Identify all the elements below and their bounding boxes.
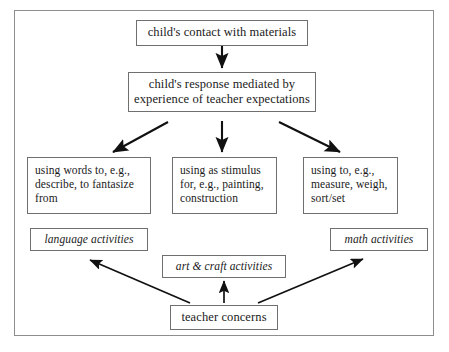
node-teacher-concerns[interactable]: teacher concerns (170, 305, 278, 330)
node-language-activities[interactable]: language activities (30, 228, 148, 251)
node-using-as-stimulus[interactable]: using as stimulus for, e.g., painting, c… (172, 157, 277, 214)
node-label: teacher concerns (171, 310, 277, 325)
node-label: using as stimulus for, e.g., painting, c… (180, 163, 276, 205)
node-label: child's response mediated by experience … (129, 77, 315, 108)
node-label: child's contact with materials (137, 25, 307, 40)
figure-root: child's contact with materials child's r… (0, 0, 449, 352)
node-label: art & craft activities (163, 259, 285, 273)
node-label: language activities (31, 232, 147, 246)
node-label: using to, e.g., measure, weigh, sort/set (311, 163, 397, 205)
node-math-activities[interactable]: math activities (330, 228, 428, 251)
node-label: using words to, e.g., describe, to fanta… (35, 163, 150, 205)
node-childs-contact-with-materials[interactable]: child's contact with materials (136, 20, 308, 46)
node-childs-response-mediated[interactable]: child's response mediated by experience … (128, 72, 316, 112)
node-label: math activities (331, 232, 427, 246)
node-using-words-to[interactable]: using words to, e.g., describe, to fanta… (27, 157, 151, 214)
node-art-craft-activities[interactable]: art & craft activities (162, 255, 286, 278)
node-using-to-measure-weigh[interactable]: using to, e.g., measure, weigh, sort/set (303, 157, 398, 214)
